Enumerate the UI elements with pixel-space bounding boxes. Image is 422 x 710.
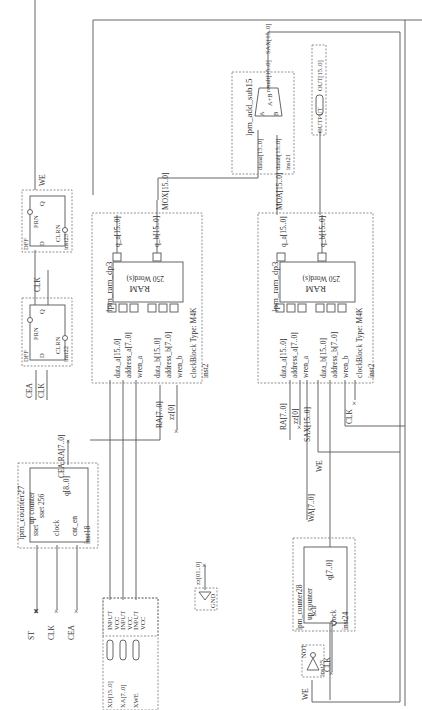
ram1-title: lpm_ram_dp3	[104, 261, 114, 312]
ram1-out: q_b[15..0]	[152, 216, 161, 247]
ram1-port: data_a[15..0]	[113, 338, 122, 378]
counter-a-title: lpm_counter27	[16, 485, 26, 540]
ram-dp3-block-2[interactable]: RAM 250 Word(s) lpm_ram_dp3 data_a[15..0…	[258, 173, 376, 473]
net-moa: MOA[15..0]	[275, 173, 284, 211]
dff-a-q: Q	[38, 309, 45, 314]
gnd-symbol: GND zz[01..0] ×	[194, 561, 217, 610]
dff-a-d: D	[38, 353, 45, 358]
counter-a-out-net: CEA,RA[7..0]	[57, 434, 66, 478]
dff-a-inst: inst22	[62, 346, 69, 362]
counter-b-inst: inst24	[341, 611, 350, 630]
ram1-out: q_a[15..0]	[113, 216, 122, 247]
net-zz: zz[0]	[291, 409, 300, 424]
ram1-words: 250 Word(s)	[126, 274, 164, 283]
ram2-words: 250 Word(s)	[302, 274, 340, 283]
ram2-port: wren_b	[341, 355, 350, 378]
ram2-port: data_a[15..0]	[279, 338, 288, 378]
ram2-core: RAM	[305, 284, 326, 294]
input-xwe: XWE	[132, 693, 139, 708]
net-wa: WA[7..0]	[307, 494, 316, 522]
inversion-bubble-icon	[311, 653, 316, 658]
adder-op: A+B	[266, 93, 273, 106]
net-sax: SAX[15..0]	[303, 407, 312, 442]
net-st: ST	[27, 631, 36, 640]
dff-a-prn: PRN	[32, 327, 39, 340]
output-type: OUTPUT	[316, 107, 323, 133]
net-we: WE	[301, 688, 310, 700]
counter-a-subtitle: up counter	[27, 492, 36, 524]
net-we: WE	[38, 174, 47, 186]
dff-inst23[interactable]: DFF PRN D Q CLRN inst23 WE CLK	[22, 174, 72, 292]
inversion-bubble-icon	[28, 318, 33, 323]
input-pins[interactable]: XD[15..0] XA[7..0] XWE INPUT VCC INPUT V…	[103, 598, 158, 710]
counter-b-out: q[7..0]	[325, 560, 334, 580]
adder-inst: inst21	[284, 154, 291, 170]
adder-out: result[15..0]	[264, 60, 272, 92]
counter-a-port-sset: sset	[31, 524, 40, 536]
net-sax: SAX[15..0]	[264, 24, 272, 54]
x-marker-icon: ×	[66, 437, 70, 446]
net-clk: CLK	[47, 624, 56, 640]
ram2-out: q_b[15..0]	[318, 216, 327, 247]
input-pin-icon	[120, 640, 126, 660]
input-type: INPUT	[119, 611, 126, 630]
dff-b-d: D	[38, 241, 45, 246]
net-zz-gnd: zz[01..0]	[194, 562, 202, 585]
lpm-counter28-block[interactable]: lpm_counter28 up counter sclr clock q[7.…	[293, 494, 355, 631]
adder-pin-b: B	[272, 111, 279, 116]
net-clk: CLK	[37, 382, 46, 398]
x-marker-icon: ×	[34, 607, 38, 616]
ram2-blocktype: Block Type: M4K	[355, 307, 364, 362]
counter-a-inst: inst18	[83, 525, 92, 544]
net-we: WE	[315, 460, 324, 472]
counter-a-port-clock: clock	[52, 520, 61, 536]
dff-a-title: DFF	[22, 350, 29, 362]
counter-a-param: sset 256	[37, 493, 46, 518]
net-cea: CEA	[67, 624, 76, 640]
not-title: NOT	[300, 645, 307, 658]
dff-b-q: Q	[38, 201, 45, 206]
net-mox: MOX[15..0]	[161, 173, 170, 211]
x-marker-icon: ×	[74, 607, 78, 616]
adder-title: lpm_add_sub15	[244, 78, 254, 136]
ram2-port: clock	[355, 362, 364, 378]
input-type: INPUT	[106, 611, 113, 630]
ram2-title: lpm_ram_dp3	[270, 261, 280, 312]
ram2-inst: inst2	[367, 363, 376, 378]
net-ra: RA[7..0]	[155, 401, 164, 428]
counter-a-out-port: q[8..0]	[62, 476, 71, 496]
x-marker-icon: ×	[329, 669, 333, 678]
x-marker-icon: ×	[54, 607, 58, 616]
ram1-inst: inst2	[201, 363, 210, 378]
ram2-port: address_b[7..0]	[330, 332, 339, 378]
net-cea: CEA	[25, 382, 34, 398]
dff-b-prn: PRN	[32, 215, 39, 228]
ram2-port: address_a[7..0]	[290, 332, 299, 378]
input-xd: XD[15..0]	[106, 681, 114, 708]
ram2-port: data_b[15..0]	[319, 338, 328, 378]
counter-b-title: lpm_counter28	[295, 584, 304, 630]
output-pin[interactable]: OUTPUT OUT[15..0]	[312, 45, 326, 135]
output-name: OUT[15..0]	[316, 60, 324, 91]
net-clk: CLK	[345, 408, 354, 424]
adder-in-a: dataa[15..0]	[256, 139, 264, 170]
input-pin-icon	[107, 640, 113, 660]
ram1-port: wren_a	[135, 355, 144, 378]
ram1-port: address_a[7..0]	[124, 332, 133, 378]
inversion-bubble-icon	[63, 336, 68, 341]
dff-a-clrn: CLRN	[54, 336, 61, 354]
lpm-counter27-block[interactable]: lpm_counter27 up counter sset 256 q[8..0…	[16, 434, 98, 640]
ram1-blocktype: Block Type: M4K	[189, 307, 198, 362]
dff-b-title: DFF	[22, 238, 29, 250]
ram1-port: clock	[189, 362, 198, 378]
not-gate-inst25[interactable]: NOT inst25 WE CLK ×	[300, 626, 333, 700]
dff-b-clrn: CLRN	[54, 224, 61, 242]
lpm-add-sub15-block[interactable]: lpm_add_sub15 dataa[15..0] datab[15..0] …	[232, 24, 294, 174]
counter-b-sclr: sclr	[309, 605, 318, 616]
input-type: INPUT	[132, 611, 139, 630]
ram1-port: data_b[15..0]	[153, 338, 162, 378]
inversion-bubble-icon	[63, 228, 68, 233]
adder-in-b: datab[15..0]	[274, 139, 282, 170]
inversion-bubble-icon	[28, 210, 33, 215]
ram1-core: RAM	[129, 284, 150, 294]
